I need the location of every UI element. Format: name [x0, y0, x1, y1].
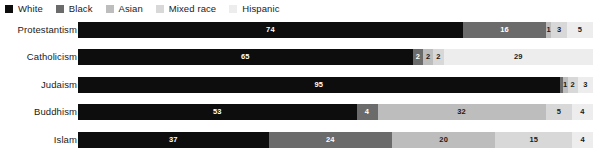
bar-segment-value: 1: [547, 22, 551, 38]
bar-segment[interactable]: 3: [578, 77, 593, 93]
stacked-bar: 7416135: [78, 22, 593, 38]
legend-item-label: Black: [69, 4, 93, 14]
bar-segment-value: 37: [169, 132, 178, 148]
chart-row: Protestantism7416135: [0, 22, 598, 49]
chart-row: Judaism95123: [0, 77, 598, 104]
category-label: Protestantism: [0, 22, 77, 38]
legend-item-label: White: [18, 4, 43, 14]
legend-swatch-icon: [229, 5, 237, 13]
bar-segment-value: 20: [439, 132, 448, 148]
legend-swatch-icon: [156, 5, 164, 13]
legend-item[interactable]: Asian: [106, 4, 143, 14]
bar-segment[interactable]: 65: [78, 49, 413, 65]
bar-segment-value: 15: [529, 132, 538, 148]
bar-segment-value: 2: [416, 49, 420, 65]
bar-segment-value: 4: [581, 132, 585, 148]
bar-segment[interactable]: 5: [567, 22, 593, 38]
bar-segment[interactable]: 37: [78, 132, 269, 148]
bar-segment[interactable]: 20: [392, 132, 495, 148]
bar-segment[interactable]: 74: [78, 22, 463, 38]
legend-item[interactable]: Hispanic: [229, 4, 279, 14]
bar-segment-value: 4: [365, 104, 369, 120]
stacked-bar: 95123: [78, 77, 593, 93]
chart-plot-area: Protestantism7416135Catholicism6522229Ju…: [0, 22, 598, 159]
bar-segment-value: 3: [557, 22, 561, 38]
bar-segment-value: 32: [457, 104, 466, 120]
bar-segment[interactable]: 95: [78, 77, 560, 93]
bar-segment[interactable]: 5: [546, 104, 572, 120]
bar-segment[interactable]: 4: [357, 104, 378, 120]
bar-segment-value: 2: [426, 49, 430, 65]
bar-segment-value: 29: [514, 49, 523, 65]
category-label: Catholicism: [0, 49, 77, 65]
legend-swatch-icon: [5, 5, 13, 13]
bar-segment[interactable]: 16: [463, 22, 546, 38]
bar-segment-value: 95: [314, 77, 323, 93]
legend-item[interactable]: Black: [56, 4, 93, 14]
bar-segment[interactable]: 2: [413, 49, 423, 65]
bar-segment-value: 5: [557, 104, 561, 120]
bar-segment-value: 1: [563, 77, 567, 93]
bar-segment[interactable]: 15: [495, 132, 572, 148]
bar-segment-value: 16: [500, 22, 509, 38]
legend-item-label: Hispanic: [242, 4, 279, 14]
bar-segment[interactable]: 4: [572, 104, 593, 120]
legend-item[interactable]: White: [5, 4, 43, 14]
bar-segment[interactable]: 3: [551, 22, 567, 38]
category-label: Judaism: [0, 77, 77, 93]
bar-segment[interactable]: 53: [78, 104, 357, 120]
chart-row: Catholicism6522229: [0, 49, 598, 76]
bar-segment[interactable]: 24: [269, 132, 393, 148]
chart-legend: WhiteBlackAsianMixed raceHispanic: [5, 2, 293, 16]
bar-segment-value: 65: [241, 49, 250, 65]
category-label: Islam: [0, 132, 77, 148]
chart-row: Buddhism5343254: [0, 104, 598, 131]
bar-segment-value: 2: [571, 77, 575, 93]
stacked-bar-chart: WhiteBlackAsianMixed raceHispanic Protes…: [0, 0, 598, 161]
legend-item[interactable]: Mixed race: [156, 4, 216, 14]
stacked-bar: 5343254: [78, 104, 593, 120]
bar-segment[interactable]: 29: [444, 49, 593, 65]
bar-segment-value: 3: [583, 77, 587, 93]
bar-segment-value: 2: [436, 49, 440, 65]
bar-segment-value: 4: [580, 104, 584, 120]
stacked-bar: 372420154: [78, 132, 593, 148]
category-label: Buddhism: [0, 104, 77, 120]
legend-item-label: Mixed race: [169, 4, 216, 14]
chart-row: Islam372420154: [0, 132, 598, 159]
bar-segment[interactable]: 2: [568, 77, 578, 93]
bar-segment[interactable]: 4: [572, 132, 593, 148]
bar-segment-value: 74: [266, 22, 275, 38]
bar-segment[interactable]: 2: [433, 49, 443, 65]
legend-swatch-icon: [56, 5, 64, 13]
bar-segment-value: 24: [326, 132, 335, 148]
legend-item-label: Asian: [119, 4, 143, 14]
legend-swatch-icon: [106, 5, 114, 13]
bar-segment-value: 5: [578, 22, 582, 38]
bar-segment[interactable]: 32: [378, 104, 546, 120]
bar-segment-value: 53: [213, 104, 222, 120]
stacked-bar: 6522229: [78, 49, 593, 65]
bar-segment[interactable]: 2: [423, 49, 433, 65]
